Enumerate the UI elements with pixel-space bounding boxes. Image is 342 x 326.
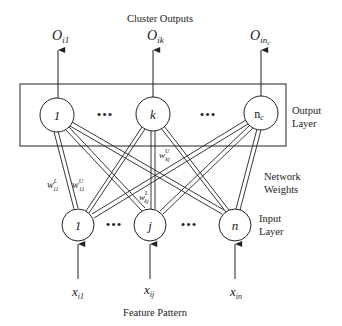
input-arrows — [78, 244, 235, 279]
cluster-outputs-title: Cluster Outputs — [127, 13, 193, 24]
output-node-1: 1 — [40, 98, 74, 132]
output-layer-label-line2: Layer — [292, 118, 317, 129]
output-label-o-ik: Oik — [147, 28, 165, 45]
svg-text:1: 1 — [75, 218, 82, 233]
input-node-1: 1 — [62, 209, 94, 241]
input-ellipsis-left: ••• — [106, 217, 123, 232]
weight-label-wkj-L: wLkj — [139, 190, 149, 204]
feature-pattern-caption: Feature Pattern — [123, 307, 188, 318]
weight-label-w11-L: wL11 — [47, 178, 59, 192]
weight-label-w11-U: wU11 — [72, 178, 85, 192]
network-weights-label: Network — [264, 171, 301, 182]
connection-1-1 — [54, 131, 78, 209]
input-label-x-ij: xij — [143, 282, 155, 299]
input-layer-label-line2: Layer — [259, 226, 284, 237]
connection-nc-1 — [92, 120, 248, 218]
output-node-k: k — [136, 97, 170, 131]
output-arrows — [58, 50, 261, 98]
connection-k-n — [161, 126, 229, 212]
output-ellipsis-left: ••• — [97, 107, 114, 122]
output-layer-label: Output — [292, 105, 321, 116]
input-ellipsis-right: ••• — [181, 217, 198, 232]
network-weights-label-line2: Weights — [264, 184, 298, 195]
weight-connections — [54, 120, 261, 218]
input-layer-label: Input — [259, 213, 281, 224]
svg-text:n: n — [232, 218, 239, 233]
input-node-n: n — [219, 209, 251, 241]
svg-text:k: k — [150, 107, 156, 122]
output-node-nc: nc — [244, 96, 278, 130]
fuzzy-art-network-diagram: Cluster Outputs Oi1 Oik Oinc 1 k — [0, 0, 342, 326]
input-label-x-in: xin — [229, 284, 242, 301]
svg-text:1: 1 — [54, 108, 61, 123]
input-label-x-i1: xi1 — [71, 284, 84, 301]
input-node-j: j — [134, 209, 166, 241]
output-ellipsis-right: ••• — [200, 107, 217, 122]
output-label-o-i1: Oi1 — [52, 28, 69, 45]
output-label-o-inc: Oinc — [250, 28, 270, 46]
weight-label-wkj-U: wUkj — [159, 148, 170, 162]
